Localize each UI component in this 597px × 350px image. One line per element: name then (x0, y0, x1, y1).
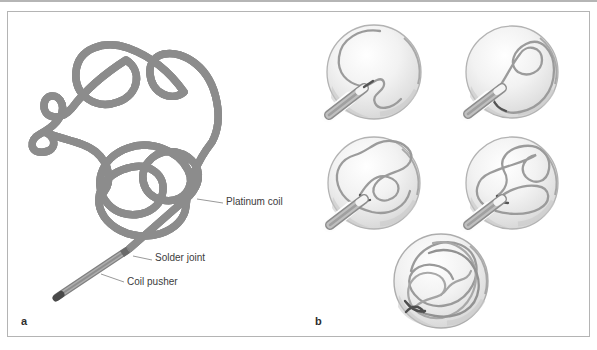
catheter-tip (359, 199, 364, 203)
solder-joint-mark (122, 250, 128, 254)
aneurysm-stage-3 (328, 137, 420, 229)
catheter-tip (359, 88, 364, 92)
aneurysm-stage-5 (394, 234, 488, 328)
panel-b-letter: b (315, 316, 322, 327)
leader-platinum-coil (197, 199, 223, 203)
coil-pusher-shaft (56, 251, 126, 298)
diagram-canvas (0, 0, 597, 350)
label-solder-joint: Solder joint (155, 252, 205, 263)
label-platinum-coil: Platinum coil (226, 196, 283, 207)
aneurysm-stage-2 (466, 26, 558, 118)
catheter-tip (497, 88, 502, 92)
panel-a-letter: a (21, 316, 27, 327)
coil-tangle (32, 45, 218, 249)
label-coil-pusher: Coil pusher (127, 276, 178, 287)
aneurysm-stage-4 (466, 137, 558, 229)
deployment-stages (327, 25, 558, 328)
leader-coil-pusher (101, 274, 124, 282)
leader-solder-joint (133, 256, 152, 260)
aneurysm-stage-1 (327, 25, 421, 119)
medical-coil-diagram: Platinum coil Solder joint Coil pusher a… (0, 0, 597, 350)
pusher-tip (56, 295, 61, 299)
catheter-tip (497, 199, 502, 203)
